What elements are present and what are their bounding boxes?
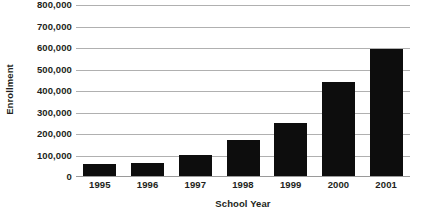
gridline bbox=[76, 134, 410, 135]
y-axis-tick-label: 100,000 bbox=[18, 151, 72, 161]
enrollment-bar-chart: Enrollment 0100,000200,000300,000400,000… bbox=[0, 0, 421, 220]
x-axis-tick-label-2001: 2001 bbox=[362, 179, 410, 190]
bar-2001 bbox=[370, 49, 403, 177]
x-axis-tick-labels: 1995199619971998199920002001 bbox=[76, 179, 410, 193]
x-axis-tick-label-1998: 1998 bbox=[219, 179, 267, 190]
bar-1999 bbox=[274, 123, 307, 177]
x-axis-tick-label-1996: 1996 bbox=[124, 179, 172, 190]
y-axis-tick-label: 800,000 bbox=[18, 0, 72, 10]
y-axis-tick-label: 0 bbox=[18, 172, 72, 182]
y-axis-tick-label: 200,000 bbox=[18, 129, 72, 139]
gridline bbox=[76, 5, 410, 6]
y-axis-tick-label: 300,000 bbox=[18, 108, 72, 118]
x-axis-tick-label-1995: 1995 bbox=[76, 179, 124, 190]
plot-area bbox=[76, 5, 410, 177]
y-axis-title-label: Enrollment bbox=[4, 64, 15, 115]
y-axis-tick-labels: 0100,000200,000300,000400,000500,000600,… bbox=[18, 0, 72, 180]
y-axis-title: Enrollment bbox=[0, 0, 18, 178]
bar-2000 bbox=[322, 82, 355, 177]
gridline bbox=[76, 91, 410, 92]
x-axis-title: School Year bbox=[76, 198, 410, 209]
y-axis-tick-label: 600,000 bbox=[18, 43, 72, 53]
bar-1998 bbox=[227, 140, 260, 177]
y-axis-tick-label: 500,000 bbox=[18, 65, 72, 75]
bar-1997 bbox=[179, 155, 212, 177]
x-axis-tick-label-1999: 1999 bbox=[267, 179, 315, 190]
gridline bbox=[76, 70, 410, 71]
x-axis-baseline bbox=[76, 176, 410, 177]
x-axis-tick-label-2000: 2000 bbox=[315, 179, 363, 190]
gridline bbox=[76, 113, 410, 114]
x-axis-tick-label-1997: 1997 bbox=[171, 179, 219, 190]
y-axis-tick-label: 700,000 bbox=[18, 22, 72, 32]
gridline bbox=[76, 48, 410, 49]
gridline bbox=[76, 27, 410, 28]
y-axis-tick-label: 400,000 bbox=[18, 86, 72, 96]
